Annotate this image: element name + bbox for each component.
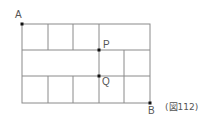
point-a <box>21 23 24 26</box>
point-q <box>98 75 101 78</box>
grid-lines <box>22 24 150 103</box>
label-a: A <box>15 10 22 20</box>
label-q: Q <box>102 77 110 87</box>
label-b: B <box>148 106 155 116</box>
point-p <box>98 49 101 52</box>
outer-border <box>22 24 150 103</box>
label-p: P <box>103 40 110 50</box>
points <box>21 23 152 105</box>
figure-caption: (図112) <box>165 103 198 112</box>
